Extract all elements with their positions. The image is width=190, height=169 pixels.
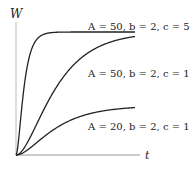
annotations-group: A = 50, b = 2, c = 5A = 50, b = 2, c = 1… (87, 21, 190, 132)
x-axis-label: t (145, 149, 150, 162)
curve-annotation-2: A = 20, b = 2, c = 1 (87, 121, 190, 132)
series-line-1 (16, 36, 135, 155)
curve-annotation-1: A = 50, b = 2, c = 1 (87, 68, 190, 79)
series-line-0 (16, 32, 135, 155)
curve-annotation-0: A = 50, b = 2, c = 5 (87, 21, 190, 32)
series-group (16, 32, 135, 155)
y-axis-label: W (10, 7, 24, 21)
growth-curve-chart: W t A = 50, b = 2, c = 5A = 50, b = 2, c… (0, 0, 190, 169)
